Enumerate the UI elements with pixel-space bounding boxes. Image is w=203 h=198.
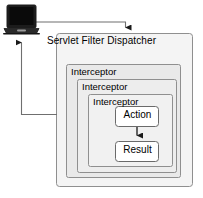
dispatcher-title: Servlet Filter Dispatcher: [0, 36, 203, 46]
request-connector: [33, 22, 126, 28]
laptop-icon: [3, 5, 40, 35]
diagram-canvas: Servlet Filter Dispatcher Interceptor In…: [0, 0, 203, 198]
response-connector: [22, 43, 58, 115]
interceptor-label-3: Interceptor: [93, 97, 138, 107]
action-label: Action: [116, 110, 159, 120]
interceptor-label-2: Interceptor: [82, 82, 127, 92]
result-label: Result: [116, 145, 159, 155]
interceptor-label-1: Interceptor: [71, 67, 116, 77]
